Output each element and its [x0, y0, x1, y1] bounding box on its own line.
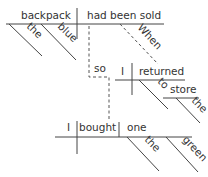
clause-1-verb: had been sold	[87, 9, 161, 21]
conjunction-connector: so	[89, 26, 109, 121]
conjunction-so: so	[94, 62, 106, 74]
clause-3-object: one	[127, 121, 147, 133]
clause-2: I returned to store the	[115, 63, 208, 123]
modifier-the-3: the	[143, 133, 164, 154]
clause-3: I bought one the green	[55, 121, 208, 172]
subordinate-when: When	[136, 21, 165, 51]
object-store: store	[170, 83, 197, 95]
modifier-the-1: the	[25, 20, 46, 41]
clause-2-subject: I	[121, 65, 124, 77]
clause-3-verb: bought	[79, 121, 116, 133]
modifier-the-2: the	[190, 94, 208, 115]
modifier-green: green	[181, 133, 208, 163]
clause-1: backpack had been sold the blue When	[6, 8, 165, 64]
clause-2-verb: returned	[139, 65, 184, 77]
sentence-diagram: backpack had been sold the blue When so …	[0, 0, 208, 177]
clause-3-subject: I	[67, 121, 70, 133]
